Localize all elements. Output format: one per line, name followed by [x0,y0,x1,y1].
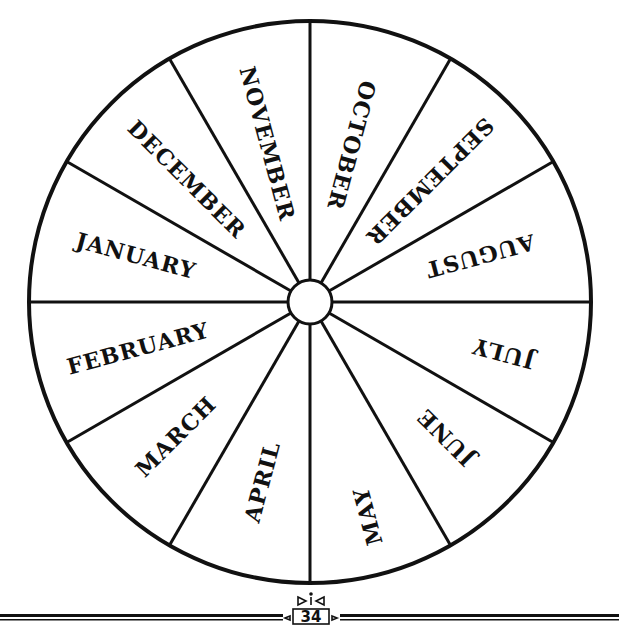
wheel-hub [288,280,332,324]
page-number: 34 [301,608,322,626]
month-wheel-diagram: JANUARY FEBRUARY MARCH APRIL MAY JUNE JU… [0,0,619,626]
